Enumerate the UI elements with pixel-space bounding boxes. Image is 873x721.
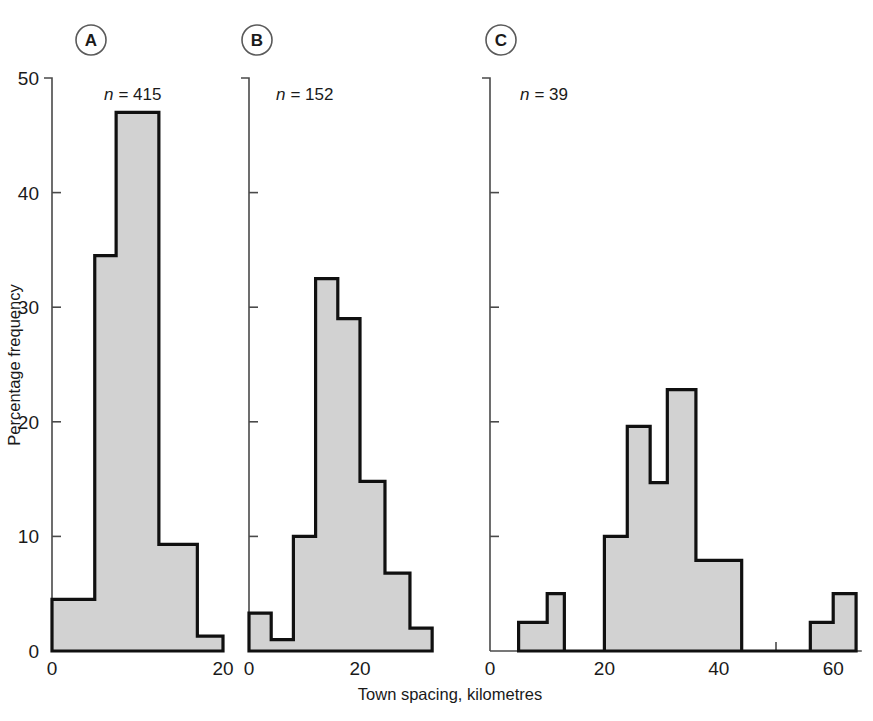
y-axis-spine-B: [241, 78, 249, 651]
y-tick-label-50: 50: [18, 68, 39, 89]
x-tick-label-20-A: 20: [212, 658, 233, 679]
sample-size-label-A: n= 415: [104, 85, 161, 104]
y-axis-spine-C: [482, 78, 490, 651]
x-tick-label-0-C: 0: [485, 658, 496, 679]
sample-size-label-B: n= 152: [276, 85, 333, 104]
y-tick-label-40: 40: [18, 183, 39, 204]
y-axis-title: Percentage frequency: [5, 284, 23, 446]
histogram-figure: An= 41501020304050020Bn= 152020Cn= 39020…: [0, 0, 873, 721]
x-axis-title: Town spacing, kilometres: [358, 685, 542, 703]
y-tick-label-0: 0: [28, 641, 39, 662]
panels-group: An= 41501020304050020Bn= 152020Cn= 39020…: [18, 25, 862, 679]
x-tick-label-60-C: 60: [823, 658, 844, 679]
histogram-outline-C: [519, 390, 856, 651]
y-axis-spine-A: [44, 78, 52, 651]
panel-badge-label-C: C: [495, 31, 507, 50]
x-tick-label-40-C: 40: [708, 658, 729, 679]
x-tick-label-0-A: 0: [47, 658, 58, 679]
panel-badge-label-B: B: [251, 31, 263, 50]
sample-size-label-C: n= 39: [520, 85, 568, 104]
x-tick-label-20-C: 20: [594, 658, 615, 679]
x-tick-label-20-B: 20: [349, 658, 370, 679]
histogram-outline-B: [249, 279, 432, 651]
x-tick-label-0-B: 0: [244, 658, 255, 679]
histogram-outline-A: [52, 112, 223, 651]
histogram-svg: An= 41501020304050020Bn= 152020Cn= 39020…: [0, 0, 873, 721]
panel-badge-label-A: A: [85, 31, 97, 50]
y-tick-label-10: 10: [18, 526, 39, 547]
